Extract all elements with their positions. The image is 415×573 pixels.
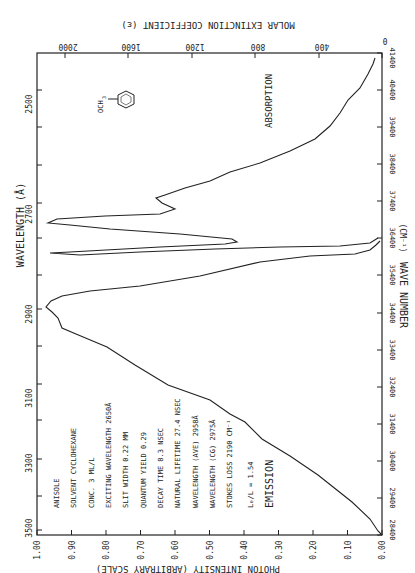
svg-text:0.90: 0.90	[68, 540, 77, 559]
svg-text:31400: 31400	[388, 413, 396, 434]
absorption-curve	[48, 58, 378, 255]
wavelength-tick-labels: 2500 2700 2900 3100 3300 3500	[25, 94, 34, 537]
info-solvent: SOLVENT CYCLOHEXANE	[70, 428, 78, 508]
svg-text:29400: 29400	[388, 487, 396, 508]
info-annotations: ANISOLE SOLVENT CYCLOHEXANE CONC. 3 ML/L…	[53, 398, 255, 508]
spectrum-chart: 2000 1600 1200 800 400 0 MOLAR EXTINCTIO…	[0, 0, 415, 573]
info-exciting-wavelength: EXCITING WAVELENGTH 2650Å	[104, 402, 113, 508]
emission-label: EMISSION	[264, 460, 275, 508]
intensity-axis	[37, 530, 382, 535]
svg-text:0.40: 0.40	[240, 540, 249, 559]
svg-text:2500: 2500	[25, 94, 34, 113]
wavenumber-axis-title: WAVE NUMBER	[398, 262, 409, 329]
svg-text:2000: 2000	[58, 42, 77, 51]
info-wavelength-cg: WAVELENGTH (CG) 2975Å	[208, 419, 217, 508]
svg-text:1.00: 1.00	[33, 540, 42, 559]
absorption-label: ABSORPTION	[264, 74, 274, 128]
intensity-axis-title: PHOTON INTENSITY (ARBITRARY SCALE)	[96, 564, 280, 573]
svg-text:40400: 40400	[388, 79, 396, 100]
svg-text:34400: 34400	[388, 302, 396, 323]
svg-text:3100: 3100	[25, 388, 34, 407]
svg-text:0.20: 0.20	[309, 540, 318, 559]
svg-text:2900: 2900	[25, 304, 34, 323]
svg-text:0.00: 0.00	[378, 540, 387, 559]
svg-text:36400: 36400	[388, 227, 396, 248]
wavenumber-axis-unit: (CM⁻¹)	[398, 224, 407, 253]
svg-text:1600: 1600	[121, 42, 140, 51]
info-concentration: CONC. 3 ML/L	[88, 457, 96, 508]
extinction-axis	[65, 53, 382, 58]
svg-text:0.70: 0.70	[137, 540, 146, 559]
svg-text:1200: 1200	[185, 42, 204, 51]
svg-text:38400: 38400	[388, 153, 396, 174]
info-stokes-loss: STOKES LOSS 2190 CM⁻¹	[226, 419, 234, 508]
svg-text:39400: 39400	[388, 116, 396, 137]
wavelength-axis	[37, 90, 42, 530]
extinction-tick-labels: 2000 1600 1200 800 400 0	[58, 36, 387, 51]
svg-text:400: 400	[315, 42, 330, 51]
extinction-axis-title: MOLAR EXTINCTION COEFFICIENT (ε)	[121, 20, 294, 30]
wavenumber-tick-labels: 41400 40400 39400 38400 37400 36400 3540…	[388, 47, 396, 540]
svg-text:0.30: 0.30	[275, 540, 284, 559]
svg-text:35400: 35400	[388, 264, 396, 285]
svg-text:0.60: 0.60	[171, 540, 180, 559]
svg-text:0.50: 0.50	[206, 540, 215, 559]
svg-text:41400: 41400	[388, 47, 396, 68]
svg-text:33400: 33400	[388, 339, 396, 360]
info-quantum-yield: QUANTUM YIELD 0.29	[140, 432, 148, 508]
svg-text:37400: 37400	[388, 190, 396, 211]
info-slit-width: SLIT WIDTH 0.22 MM	[122, 432, 130, 508]
wavelength-axis-title: WAVELENGTH (Å)	[14, 183, 26, 267]
svg-text:3500: 3500	[25, 518, 34, 537]
info-compound: ANISOLE	[53, 478, 61, 508]
svg-text:0.80: 0.80	[102, 540, 111, 559]
svg-text:30400: 30400	[388, 450, 396, 471]
svg-text:28400: 28400	[388, 519, 396, 540]
och3-subscript: 3	[101, 96, 107, 99]
info-natural-lifetime: NATURAL LIFETIME 27.4 NSEC	[174, 398, 182, 508]
info-decay-time: DECAY TIME 8.3 NSEC	[157, 428, 165, 508]
svg-text:3300: 3300	[25, 453, 34, 472]
intensity-tick-labels: 1.00 0.90 0.80 0.70 0.60 0.50 0.40 0.30 …	[33, 540, 387, 559]
svg-text:0: 0	[382, 36, 387, 45]
info-wavelength-ave: WAVELENGTH (AVE) 2958Å	[191, 414, 200, 508]
svg-text:0.10: 0.10	[344, 540, 353, 559]
svg-text:32400: 32400	[388, 376, 396, 397]
svg-text:2700: 2700	[25, 204, 34, 223]
svg-text:800: 800	[251, 42, 266, 51]
info-l0-ratio: L₀/L = 1.54	[247, 462, 255, 508]
anisole-structure-icon: OCH 3	[97, 91, 134, 113]
wavenumber-axis	[377, 53, 382, 535]
och3-label: OCH	[97, 100, 105, 113]
